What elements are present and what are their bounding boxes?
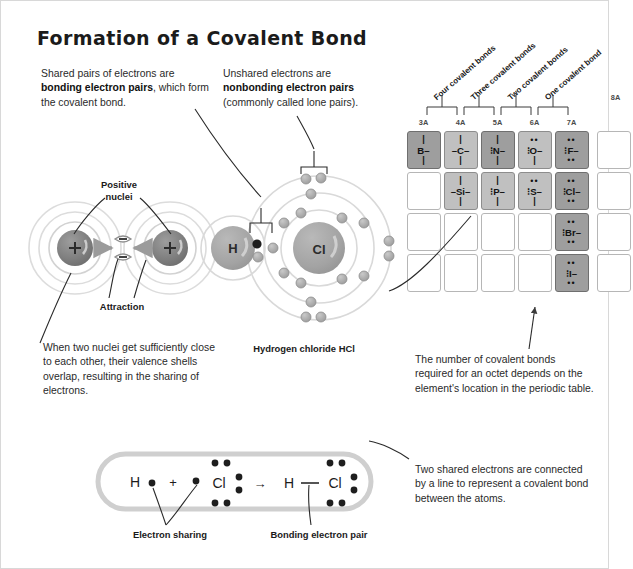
leader-bonding-pairs [195, 109, 261, 197]
lewis-reactant-cl-symbol: Cl [212, 475, 225, 491]
shared-electron-region [115, 236, 131, 260]
lewis-product-h-symbol: H [284, 475, 294, 491]
electron-shared-chlorine [253, 252, 263, 262]
lewis-plus-sign: + [169, 475, 177, 490]
bond-count-bracket [538, 107, 568, 115]
bond-count-bracket [427, 107, 457, 115]
lewis-reaction-arrow: → [254, 476, 267, 491]
leader-electron-sharing-2 [166, 485, 197, 525]
lewis-equation-diagram: H + Cl → H Cl [98, 441, 409, 525]
atom-hydrogen-symbol: H [228, 241, 237, 256]
bracket-nonbonding-pair [301, 167, 327, 174]
bond-count-bracket [501, 107, 531, 115]
leader-nonbonding-pairs [297, 116, 314, 149]
leader-two-shared-electrons [369, 441, 409, 459]
lewis-h-electron [149, 480, 156, 487]
lewis-cl-lone-electron [193, 478, 200, 485]
electron-shared-hydrogen [252, 239, 261, 248]
lewis-product-cl-symbol: Cl [328, 475, 341, 491]
atom-chlorine-symbol: Cl [313, 242, 326, 257]
bond-count-bracket [464, 107, 494, 115]
leader-chlorine-to-table [389, 216, 471, 291]
hcl-diagram: H Cl [201, 151, 394, 322]
leader-octet-arrow [529, 307, 535, 349]
leader-bonding-electron-pair [309, 485, 311, 525]
atom-pair-diagram [29, 202, 216, 294]
lewis-reactant-h-symbol: H [130, 474, 140, 490]
